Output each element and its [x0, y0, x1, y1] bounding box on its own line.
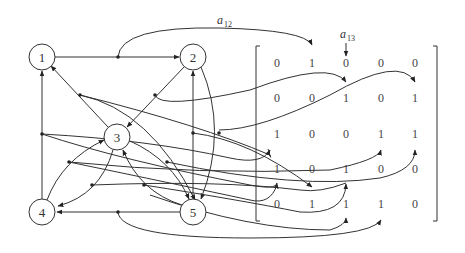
- cell-5-3: 1: [343, 197, 349, 211]
- node-5-label: 5: [190, 205, 197, 220]
- a12-sub: 12: [224, 20, 232, 29]
- node-4: 4: [29, 199, 55, 225]
- cell-3-4: 1: [378, 127, 384, 141]
- edge-midpoints: [40, 55, 221, 214]
- cell-5-4: 1: [378, 197, 384, 211]
- cell-2-3: 1: [343, 91, 349, 105]
- node-1: 1: [29, 44, 55, 70]
- cell-1-3: 0: [343, 56, 349, 70]
- edge-5-3: [123, 150, 182, 205]
- edge-4-3: [47, 140, 104, 200]
- node-2: 2: [180, 44, 206, 70]
- matrix-row-2: 0 0 1 0 1: [274, 91, 418, 105]
- a13-base: a: [340, 27, 346, 41]
- mapping-curves: [42, 28, 415, 238]
- map-a25: [219, 71, 415, 130]
- annotation-a13: a 13: [340, 27, 355, 56]
- cell-2-2: 0: [309, 91, 315, 105]
- matrix-row-3: 1 0 0 1 1: [274, 127, 418, 141]
- cell-3-3: 0: [343, 127, 349, 141]
- matrix-row-5: 0 1 1 1 0: [274, 197, 418, 211]
- node-5: 5: [180, 199, 206, 225]
- node-4-label: 4: [39, 205, 46, 220]
- matrix-right-bracket: [433, 46, 437, 221]
- cell-4-4: 0: [378, 162, 384, 176]
- node-3-label: 3: [114, 130, 121, 145]
- cell-1-2: 1: [309, 56, 315, 70]
- cell-3-5: 1: [412, 127, 418, 141]
- cell-3-2: 0: [309, 127, 315, 141]
- matrix-left-bracket: [256, 46, 260, 221]
- map-a12: [118, 28, 312, 57]
- a13-sub: 13: [347, 34, 355, 43]
- map-a34: [69, 150, 381, 171]
- cell-1-4: 0: [378, 56, 384, 70]
- edge-2-3: [127, 67, 184, 127]
- cell-4-5: 0: [412, 162, 418, 176]
- cell-5-1: 0: [274, 197, 280, 211]
- graph-diagram: 1 2 3 4 5 a 12 a 13 0 1 0 0 0 0: [0, 0, 465, 253]
- cell-2-4: 0: [378, 91, 384, 105]
- cell-4-3: 1: [343, 162, 349, 176]
- a12-base: a: [217, 13, 223, 27]
- cell-1-5: 0: [412, 56, 418, 70]
- cell-5-2: 1: [309, 197, 315, 211]
- cell-5-5: 0: [412, 197, 418, 211]
- matrix-row-4: 1 0 1 0 0: [274, 162, 418, 176]
- map-a23: [155, 73, 346, 102]
- annotation-a12: a 12: [217, 13, 232, 29]
- node-2-label: 2: [190, 50, 197, 65]
- node-3: 3: [104, 124, 130, 150]
- edge-3-4: [58, 150, 113, 206]
- cell-3-1: 1: [274, 127, 280, 141]
- map-a34b: [69, 162, 277, 201]
- matrix-row-1: 0 1 0 0 0: [274, 56, 418, 70]
- cell-1-1: 0: [274, 56, 280, 70]
- cell-4-2: 0: [309, 162, 315, 176]
- node-1-label: 1: [39, 50, 46, 65]
- cell-2-5: 1: [412, 91, 418, 105]
- map-a41b: [42, 134, 277, 187]
- cell-2-1: 0: [274, 91, 280, 105]
- cell-4-1: 1: [274, 162, 280, 176]
- map-a53: [144, 184, 346, 212]
